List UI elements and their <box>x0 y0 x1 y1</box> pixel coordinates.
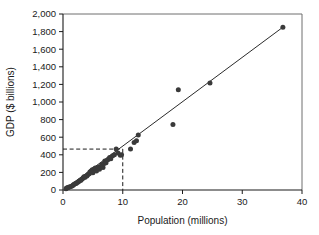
data-point <box>119 152 124 157</box>
data-point <box>136 133 141 138</box>
data-point <box>176 87 181 92</box>
x-axis-ticks <box>63 190 302 194</box>
y-tick-label: 600 <box>40 132 56 143</box>
x-axis-title: Population (millions) <box>137 215 227 226</box>
data-point <box>280 25 285 30</box>
y-tick-label: 0 <box>51 184 56 195</box>
y-tick-label: 2,000 <box>32 8 56 19</box>
y-tick-label: 1,200 <box>32 79 56 90</box>
y-axis-tick-labels: 0 200 400 600 800 1,000 1,200 1,400 1,60… <box>32 8 56 195</box>
y-tick-label: 1,000 <box>32 96 56 107</box>
data-point <box>128 147 133 152</box>
y-axis-ticks <box>59 14 63 190</box>
y-tick-label: 1,600 <box>32 44 56 55</box>
y-tick-label: 400 <box>40 149 56 160</box>
chart-canvas: 0 200 400 600 800 1,000 1,200 1,400 1,60… <box>0 0 319 235</box>
data-point <box>134 138 139 143</box>
x-tick-label: 10 <box>117 196 128 207</box>
gdp-population-scatter-figure: 0 200 400 600 800 1,000 1,200 1,400 1,60… <box>0 0 319 235</box>
y-tick-label: 800 <box>40 114 56 125</box>
x-axis-tick-labels: 0 10 20 30 40 <box>60 196 307 207</box>
y-tick-label: 200 <box>40 167 56 178</box>
data-point <box>170 122 175 127</box>
x-tick-label: 30 <box>237 196 248 207</box>
y-axis-title: GDP ($ billions) <box>5 67 16 137</box>
data-point <box>207 81 212 86</box>
x-tick-label: 20 <box>177 196 188 207</box>
fit-line <box>65 27 284 189</box>
y-tick-label: 1,800 <box>32 26 56 37</box>
x-tick-label: 0 <box>60 196 65 207</box>
x-tick-label: 40 <box>297 196 308 207</box>
y-tick-label: 1,400 <box>32 61 56 72</box>
